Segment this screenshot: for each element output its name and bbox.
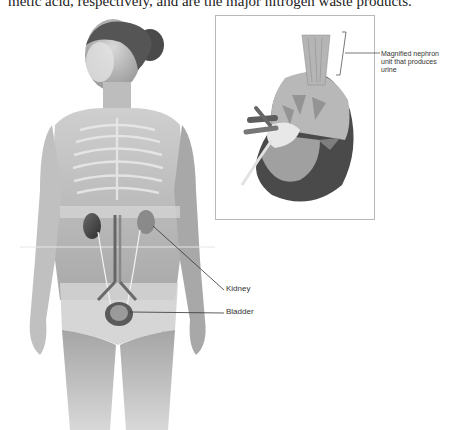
kidney-label: Kidney	[226, 285, 250, 293]
nephron-label: Magnified nephron unit that produces uri…	[381, 50, 451, 74]
left-arm	[174, 125, 206, 355]
neck	[103, 82, 131, 112]
kidney-cross-section	[242, 32, 380, 202]
bladder-label: Bladder	[226, 308, 254, 316]
left-leg	[120, 330, 175, 430]
right-leg	[62, 330, 116, 430]
woman-figure	[20, 19, 215, 430]
nephron-bracket	[336, 32, 346, 75]
